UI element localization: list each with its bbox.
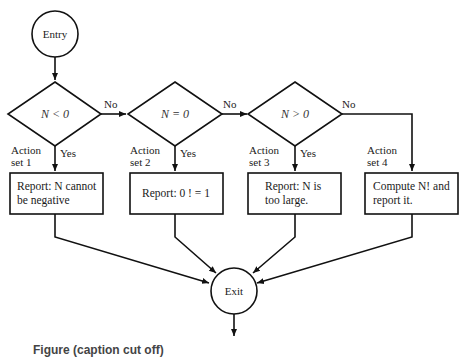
action-set-2-line2: set 2 [130, 156, 150, 168]
exit-label: Exit [225, 285, 243, 297]
yes-label-3: Yes [300, 147, 316, 159]
connector-3 [253, 214, 295, 273]
connector-1 [55, 214, 209, 283]
condition-1: N < 0 [40, 107, 69, 121]
action-4-text-line1: Compute N! and [373, 180, 450, 193]
connector-4 [257, 214, 412, 283]
yes-label-1: Yes [60, 147, 76, 159]
action-3-text-line1: Report: N is [265, 180, 322, 193]
action-2-text-line1: Report: 0 ! = 1 [142, 187, 210, 200]
action-set-2-line1: Action [130, 144, 160, 156]
no-label-3: No [342, 98, 356, 110]
action-set-4-line2: set 4 [367, 156, 388, 168]
no-label-1: No [104, 98, 118, 110]
condition-3: N > 0 [280, 107, 309, 121]
action-set-1-line2: set 1 [11, 156, 31, 168]
action-set-1-line1: Action [11, 144, 41, 156]
condition-2: N = 0 [160, 107, 189, 121]
entry-label: Entry [43, 28, 68, 40]
action-set-4-line1: Action [367, 144, 397, 156]
action-3-text-line2: too large. [265, 194, 308, 207]
no-label-2: No [223, 98, 237, 110]
action-set-3-line2: set 3 [249, 156, 270, 168]
figure-caption: Figure (caption cut off) [33, 343, 164, 357]
action-1-text-line2: be negative [17, 194, 70, 207]
action-4-text-line2: report it. [373, 194, 413, 207]
action-1-text-line1: Report: N cannot [17, 180, 97, 193]
yes-label-2: Yes [180, 147, 196, 159]
connector-2 [175, 214, 216, 273]
action-set-3-line1: Action [249, 144, 279, 156]
